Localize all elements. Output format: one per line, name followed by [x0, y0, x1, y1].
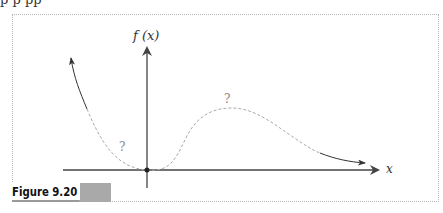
origin-point: [145, 168, 150, 173]
y-axis-label: f (x): [133, 28, 159, 43]
dashed-curve-hump: [147, 108, 320, 170]
dashed-curve-left: [87, 109, 147, 170]
caption-text: Figure 9.20: [12, 183, 80, 202]
x-axis-label: x: [386, 162, 393, 176]
function-diagram: [0, 0, 443, 213]
right-tail-curve: [320, 153, 365, 163]
caption-bar: [80, 183, 111, 202]
peak-question-mark: ?: [224, 92, 230, 106]
left-asymptotic-curve: [71, 58, 87, 109]
left-question-mark: ?: [119, 140, 125, 154]
figure-caption: Figure 9.20: [12, 183, 99, 202]
